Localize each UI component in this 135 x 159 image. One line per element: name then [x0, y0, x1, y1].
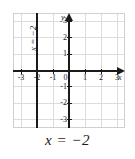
coordinate-plane: x y -3-2-10123-3-2-1123 x = −2 — [13, 13, 125, 128]
y-axis-tick-label: 3 — [58, 17, 67, 25]
y-axis-tick-label: -1 — [58, 83, 67, 91]
x-axis-tick-label: -3 — [18, 74, 25, 82]
y-axis-tick — [67, 21, 72, 22]
x-axis-tick-label: 0 — [64, 74, 68, 82]
y-axis-tick-label: 2 — [58, 34, 67, 42]
x-axis-tick-label: 2 — [99, 74, 103, 82]
x-axis-tick-label: 1 — [83, 74, 87, 82]
graph-figure: x y -3-2-10123-3-2-1123 x = −2 x = −2 — [0, 0, 135, 159]
y-axis-tick-label: -2 — [58, 99, 67, 107]
figure-caption: x = −2 — [0, 132, 135, 149]
y-axis-tick — [67, 119, 72, 120]
y-axis — [68, 19, 70, 128]
plotted-line-label: x = −2 — [29, 26, 38, 51]
x-axis-tick-label: -1 — [50, 74, 57, 82]
y-axis-tick-label: -3 — [58, 116, 67, 124]
x-axis-tick-label: 3 — [115, 74, 119, 82]
y-axis-tick — [67, 54, 72, 55]
x-axis — [13, 70, 119, 72]
y-axis-tick — [67, 103, 72, 104]
y-axis-tick — [67, 37, 72, 38]
y-axis-tick — [67, 86, 72, 87]
y-axis-tick-label: 1 — [58, 50, 67, 58]
